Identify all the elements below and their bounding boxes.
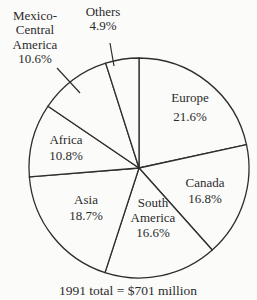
slice-label-mexico-central-america: Mexico-CentralAmerica10.6% (13, 8, 58, 67)
slice-label-canada: Canada16.8% (186, 175, 225, 206)
slice-label-asia: Asia18.7% (69, 192, 103, 223)
pie-chart: Europe21.6%Canada16.8%SouthAmerica16.6%A… (0, 0, 257, 300)
pie-slices (29, 58, 249, 278)
chart-caption: 1991 total = $701 million (59, 283, 197, 298)
slice-label-africa: Africa10.8% (49, 132, 83, 163)
slice-label-others: Others4.9% (86, 4, 121, 33)
